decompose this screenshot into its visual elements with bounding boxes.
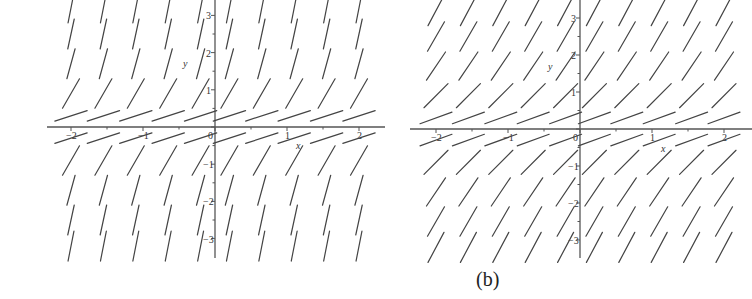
slope-segment: [259, 205, 265, 235]
slope-segment: [489, 150, 513, 174]
slope-segment: [343, 111, 375, 122]
slope-segment: [133, 19, 139, 49]
slope-segment: [460, 0, 476, 26]
slope-segment: [356, 205, 362, 235]
slope-segment: [611, 134, 643, 146]
slope-segment: [95, 79, 112, 108]
slope-segment: [318, 79, 335, 108]
slope-segment: [650, 52, 669, 80]
slope-segment: [286, 79, 303, 108]
slope-segment: [323, 19, 329, 49]
slope-segment: [225, 49, 233, 79]
slope-segment: [619, 0, 635, 26]
slope-segment: [682, 178, 701, 206]
slope-segment: [253, 146, 270, 175]
slope-segment: [585, 178, 604, 206]
slope-segment: [63, 146, 80, 175]
slope-segment: [712, 84, 736, 108]
slope-segment: [87, 111, 119, 122]
slope-segment: [322, 49, 330, 79]
y-tick-label: −2: [203, 196, 214, 207]
slope-segment: [184, 111, 216, 122]
slope-segment: [356, 231, 362, 261]
y-tick-label: −3: [203, 234, 214, 245]
slope-field-figure: −2−1012321−1−2−3xy−2−1012321−1−2−3xy: [0, 0, 752, 299]
slope-segment: [619, 232, 635, 262]
slope-segment: [452, 112, 484, 124]
slope-segment: [278, 111, 310, 122]
slope-field-panel-left: −2−1012321−1−2−3xy: [47, 0, 385, 261]
slope-segment: [716, 207, 733, 236]
slope-segment: [716, 22, 733, 51]
slope-segment: [100, 0, 106, 23]
slope-segment: [355, 49, 363, 79]
slope-segment: [578, 134, 610, 146]
slope-segment: [351, 146, 368, 175]
slope-segment: [351, 79, 368, 108]
x-tick-label: 2: [722, 132, 727, 143]
x-axis-label: x: [660, 143, 666, 154]
slope-segment: [617, 178, 636, 206]
y-tick-label: −1: [568, 161, 579, 172]
slope-segment: [586, 0, 602, 26]
slope-segment: [68, 205, 74, 235]
y-tick-label: 3: [206, 10, 211, 21]
slope-segment: [643, 134, 675, 146]
slope-segment: [286, 146, 303, 175]
slope-segment: [164, 175, 172, 205]
slope-segment: [611, 112, 643, 124]
slope-segment: [356, 0, 362, 23]
slope-segment: [550, 112, 582, 124]
slope-segment: [165, 0, 171, 23]
slope-segment: [165, 19, 171, 49]
slope-segment: [68, 0, 74, 23]
slope-segment: [651, 232, 667, 262]
slope-segment: [198, 0, 204, 23]
slope-segment: [100, 231, 106, 261]
slope-segment: [310, 111, 342, 122]
slope-segment: [493, 0, 509, 26]
slope-segment: [197, 19, 203, 49]
slope-segment: [517, 134, 549, 146]
slope-segment: [618, 207, 635, 236]
slope-segment: [67, 49, 75, 79]
slope-segment: [132, 49, 140, 79]
slope-segment: [491, 52, 510, 80]
slope-segment: [582, 150, 606, 174]
slope-segment: [521, 84, 545, 108]
slope-segment: [246, 133, 278, 144]
slope-segment: [226, 19, 232, 49]
slope-segment: [618, 22, 635, 51]
figure-caption: (b): [476, 268, 499, 291]
slope-segment: [586, 232, 602, 262]
slope-segment: [196, 49, 204, 79]
slope-segment: [197, 205, 203, 235]
slope-segment: [165, 205, 171, 235]
slope-segment: [278, 133, 310, 144]
slope-segment: [133, 0, 139, 23]
slope-segment: [259, 19, 265, 49]
slope-segment: [615, 84, 639, 108]
slope-segment: [221, 146, 238, 175]
slope-segment: [133, 231, 139, 261]
slope-segment: [95, 146, 112, 175]
slope-segment: [246, 111, 278, 122]
slope-segment: [643, 112, 675, 124]
slope-segment: [226, 205, 232, 235]
slope-segment: [259, 0, 265, 23]
slope-segment: [253, 79, 270, 108]
slope-segment: [578, 112, 610, 124]
slope-segment: [127, 79, 144, 108]
slope-segment: [132, 175, 140, 205]
slope-segment: [716, 232, 732, 262]
slope-segment: [221, 79, 238, 108]
slope-segment: [322, 175, 330, 205]
slope-segment: [68, 19, 74, 49]
slope-segment: [100, 19, 106, 49]
slope-segment: [428, 0, 444, 26]
slope-segment: [290, 49, 298, 79]
y-tick-label: 1: [571, 87, 576, 98]
slope-segment: [356, 19, 362, 49]
slope-segment: [152, 111, 184, 122]
slope-segment: [676, 134, 708, 146]
